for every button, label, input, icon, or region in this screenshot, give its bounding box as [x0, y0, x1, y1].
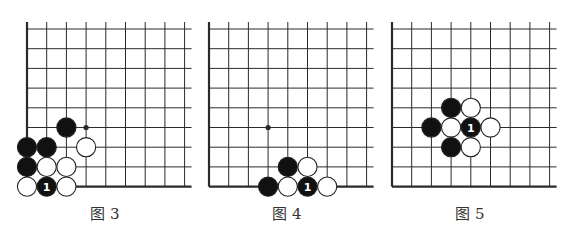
white-stone	[318, 177, 337, 196]
point-marker-dot	[266, 125, 271, 130]
move-number-label: 1	[304, 181, 312, 194]
black-stone	[422, 118, 441, 137]
white-stone-icon	[37, 157, 56, 176]
white-stone	[298, 157, 317, 176]
go-board-figure-4: 1	[209, 22, 374, 196]
black-stone-move-1: 1	[461, 118, 480, 137]
black-stone-icon	[37, 138, 56, 157]
white-stone	[461, 138, 480, 157]
black-stone	[17, 138, 36, 157]
caption-figure-4: 图 4	[272, 202, 301, 223]
white-stone-icon	[461, 138, 480, 157]
white-stone-icon	[57, 157, 76, 176]
white-stone	[57, 157, 76, 176]
white-stone	[461, 98, 480, 117]
move-number-label: 1	[43, 181, 51, 194]
caption-figure-3: 图 3	[90, 202, 119, 223]
white-stone-icon	[318, 177, 337, 196]
white-stone-icon	[278, 177, 297, 196]
white-stone	[442, 118, 461, 137]
black-stone	[278, 157, 297, 176]
black-stone-icon	[278, 157, 297, 176]
white-stone-icon	[481, 118, 500, 137]
caption-figure-5: 图 5	[455, 202, 484, 223]
move-number-label: 1	[467, 122, 475, 135]
white-stone-icon	[442, 118, 461, 137]
black-stone	[259, 177, 278, 196]
black-stone	[57, 118, 76, 137]
white-stone	[481, 118, 500, 137]
white-stone	[278, 177, 297, 196]
black-stone	[442, 138, 461, 157]
go-board-figure-5: 1	[392, 22, 557, 187]
white-stone-icon	[461, 98, 480, 117]
white-stone	[17, 177, 36, 196]
go-board-figure-3: 1	[17, 22, 191, 196]
black-stone-icon	[17, 157, 36, 176]
black-stone-icon	[422, 118, 441, 137]
white-stone	[37, 157, 56, 176]
black-stone	[17, 157, 36, 176]
black-stone-icon	[442, 138, 461, 157]
white-stone	[77, 138, 96, 157]
black-stone-icon	[17, 138, 36, 157]
black-stone-icon	[442, 98, 461, 117]
white-stone-icon	[57, 177, 76, 196]
black-stone-icon	[259, 177, 278, 196]
white-stone-icon	[17, 177, 36, 196]
black-stone-move-1: 1	[298, 177, 317, 196]
white-stone	[57, 177, 76, 196]
black-stone-icon	[57, 118, 76, 137]
black-stone-move-1: 1	[37, 177, 56, 196]
black-stone	[37, 138, 56, 157]
white-stone-icon	[298, 157, 317, 176]
white-stone-icon	[77, 138, 96, 157]
point-marker-dot	[84, 125, 89, 130]
black-stone	[442, 98, 461, 117]
